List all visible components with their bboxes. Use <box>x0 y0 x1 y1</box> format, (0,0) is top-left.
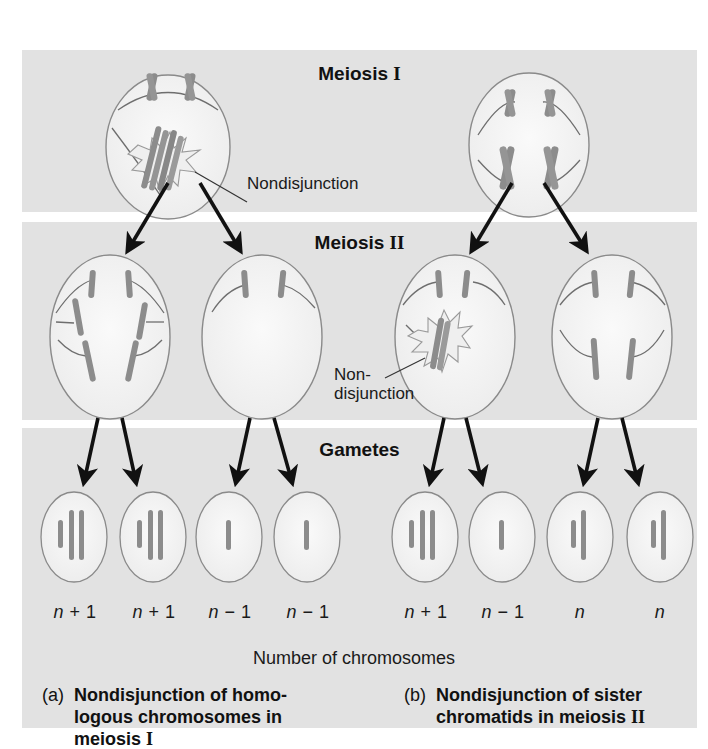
caption-b: (b) Nondisjunction of sister chromatids … <box>404 684 704 728</box>
meiosis2-cell-1 <box>50 255 170 419</box>
gamete-3 <box>196 492 262 582</box>
arrows-meiosis2-to-gametes <box>84 418 638 482</box>
caption-a-tag: (a) <box>42 684 64 706</box>
caption-b-line1: Nondisjunction of sister <box>436 684 704 706</box>
gamete-count-6: n − 1 <box>468 602 538 623</box>
gamete-count-5: n + 1 <box>391 602 461 623</box>
caption-a-line2: logous chromosomes in <box>74 706 342 728</box>
label-nondisjunction-meiosis2-line1: Non- <box>334 365 371 385</box>
gamete-2 <box>120 492 186 582</box>
gamete-1 <box>41 492 107 582</box>
gamete-4 <box>274 492 340 582</box>
meiosis1-cell-b <box>469 73 589 217</box>
caption-b-line2: chromatids in meiosis II <box>436 706 704 728</box>
gamete-6 <box>469 492 535 582</box>
gamete-5 <box>392 492 458 582</box>
caption-a: (a) Nondisjunction of homo- logous chrom… <box>42 684 342 749</box>
meiosis2-cell-4 <box>552 255 672 419</box>
gamete-count-4: n − 1 <box>273 602 343 623</box>
caption-b-tag: (b) <box>404 684 426 706</box>
gamete-count-7: n <box>545 602 615 623</box>
gamete-count-1: n + 1 <box>40 602 110 623</box>
gamete-8 <box>627 492 693 582</box>
label-nondisjunction-meiosis2-line2: disjunction <box>334 384 414 404</box>
caption-a-line1: Nondisjunction of homo- <box>74 684 342 706</box>
caption-a-line3: meiosis I <box>74 728 342 749</box>
axis-label-number-of-chromosomes: Number of chromosomes <box>0 648 708 669</box>
gamete-7 <box>547 492 613 582</box>
meiosis1-cell-a <box>106 73 247 219</box>
meiosis2-cell-2 <box>202 255 322 419</box>
gamete-count-2: n + 1 <box>119 602 189 623</box>
gamete-count-3: n − 1 <box>195 602 265 623</box>
gamete-count-8: n <box>625 602 695 623</box>
label-nondisjunction-meiosis1: Nondisjunction <box>247 174 359 194</box>
